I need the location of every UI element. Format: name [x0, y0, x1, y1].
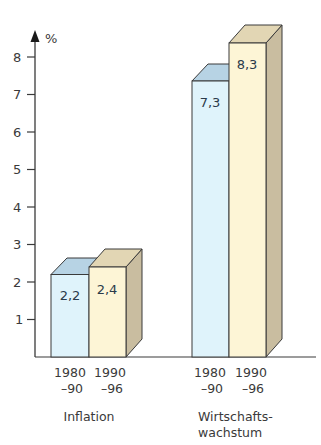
svg-text:–96: –96 — [101, 381, 123, 396]
y-ticks — [27, 57, 35, 320]
svg-text:1990: 1990 — [94, 365, 126, 380]
bar-value-label: 2,4 — [97, 282, 118, 297]
y-tick-label: 4 — [13, 200, 21, 215]
svg-text:–90: –90 — [201, 381, 223, 396]
category-label-growth-line2: wachstum — [198, 425, 262, 440]
y-tick-label: 5 — [13, 162, 21, 177]
svg-text:1980: 1980 — [54, 365, 86, 380]
bar-growth-1990-96: 8,3 — [229, 25, 282, 357]
y-tick-label: 3 — [13, 237, 21, 252]
y-tick-label: 8 — [13, 50, 21, 65]
y-tick-label: 6 — [13, 125, 21, 140]
y-tick-label: 1 — [15, 312, 23, 327]
y-tick-label: 2 — [13, 275, 21, 290]
svg-text:1980: 1980 — [194, 365, 226, 380]
svg-text:–90: –90 — [61, 381, 83, 396]
bar-value-label: 2,2 — [60, 288, 81, 303]
svg-text:–96: –96 — [242, 381, 264, 396]
bar-inflation-1990-96: 2,4 — [89, 249, 142, 357]
bar-value-label: 7,3 — [200, 95, 221, 110]
bar-chart: % 1 2 3 4 5 6 7 8 2,2 2,4 7 — [0, 0, 321, 445]
y-tick-labels: 1 2 3 4 5 6 7 8 — [13, 50, 23, 327]
category-label-inflation: Inflation — [63, 409, 114, 424]
y-axis-arrow-icon — [31, 30, 40, 42]
x-series-labels-inflation: 1980 –90 1990 –96 — [54, 365, 126, 396]
category-label-growth-line1: Wirtschafts- — [198, 409, 273, 424]
x-series-labels-growth: 1980 –90 1990 –96 — [194, 365, 267, 396]
bar-value-label: 8,3 — [237, 57, 258, 72]
y-tick-label: 7 — [13, 87, 21, 102]
y-axis-unit: % — [45, 31, 57, 46]
svg-text:1990: 1990 — [235, 365, 267, 380]
